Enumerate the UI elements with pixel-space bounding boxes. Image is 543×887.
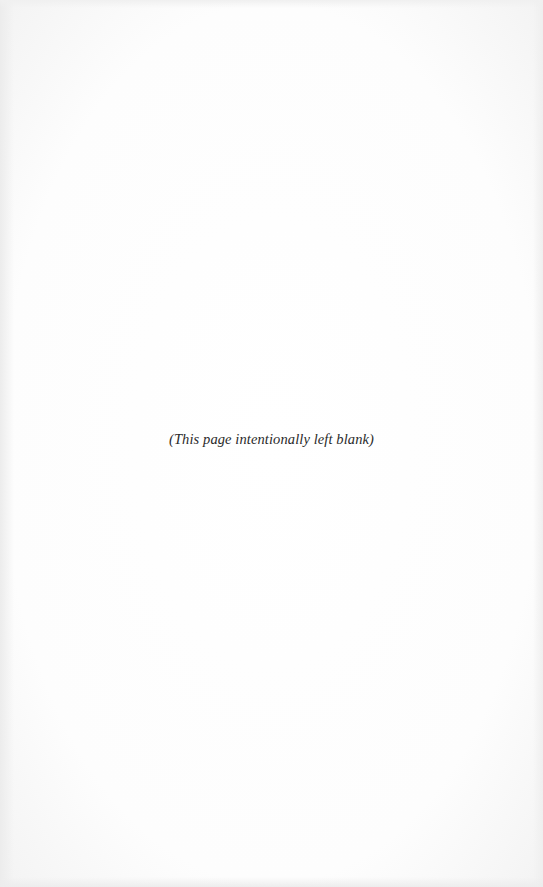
page-edge-shadow-top <box>0 0 543 8</box>
document-page: (This page intentionally left blank) <box>0 0 543 887</box>
page-edge-shadow-bottom <box>0 877 543 887</box>
blank-page-notice: (This page intentionally left blank) <box>0 431 543 448</box>
